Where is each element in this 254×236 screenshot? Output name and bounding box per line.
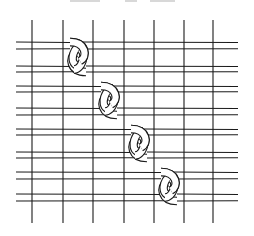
hook-knot (101, 86, 117, 115)
strip-edge-top (16, 42, 70, 43)
strip-edge-top (177, 194, 238, 195)
strip-edge-top (143, 129, 238, 130)
strip-edge-top (16, 66, 74, 67)
strip-edge-top (16, 194, 165, 195)
hook-knot (131, 129, 147, 158)
strip-edge-top (16, 152, 135, 153)
strip-edge-top (173, 172, 238, 173)
strip-edge-top (16, 86, 101, 87)
horizontal-strips (16, 42, 238, 201)
strip-edge-top (147, 152, 238, 153)
strip-edge-top (86, 66, 238, 67)
strip-edge-top (117, 108, 238, 109)
strip-edge-top (16, 129, 131, 130)
hook-knot (70, 42, 86, 72)
strip-edge-top (16, 172, 161, 173)
hook-knot (161, 172, 177, 201)
vertical-grid-lines (32, 20, 213, 223)
strip-edge-top (113, 86, 238, 87)
strip-edge-top (16, 108, 105, 109)
strip-edge-top (82, 42, 238, 43)
knot-grid-diagram (0, 0, 254, 236)
